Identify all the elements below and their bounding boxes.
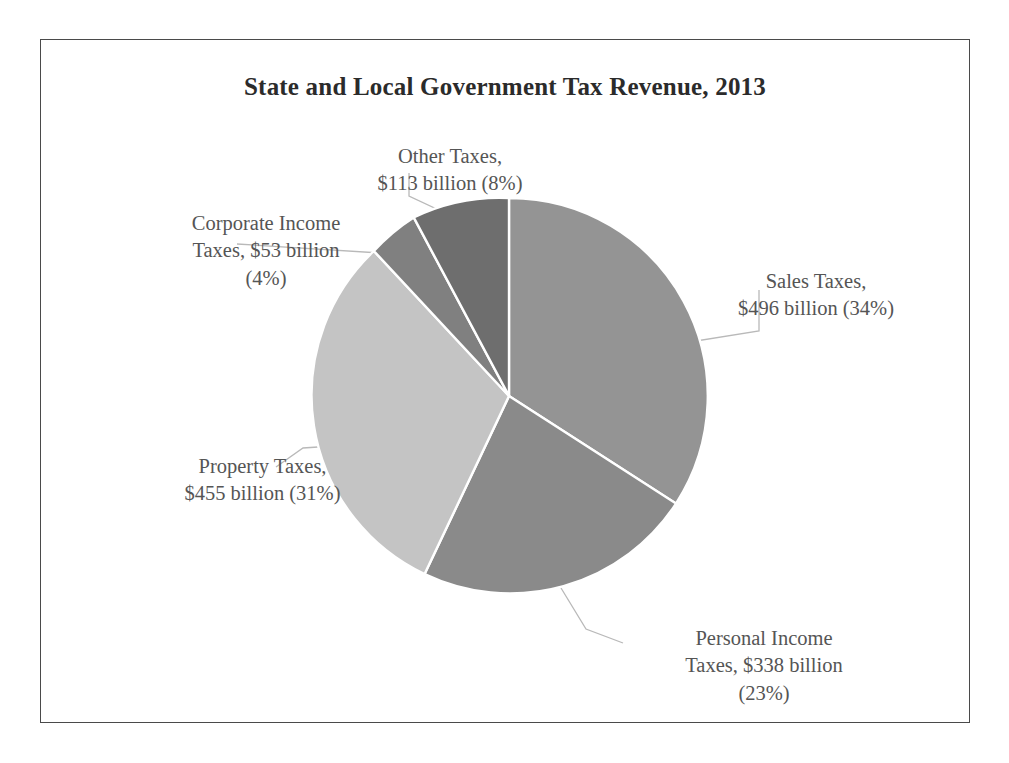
pie-label-property-taxes: Property Taxes, $455 billion (31%) (145, 453, 380, 508)
pie-label-personal-income-taxes: Personal Income Taxes, $338 billion (23%… (639, 625, 889, 707)
chart-frame: State and Local Government Tax Revenue, … (40, 39, 970, 723)
pie-label-other-taxes: Other Taxes, $113 billion (8%) (325, 143, 575, 198)
pie-label-corporate-income-taxes: Corporate Income Taxes, $53 billion (4%) (151, 210, 381, 292)
pie-label-sales-taxes: Sales Taxes, $496 billion (34%) (681, 268, 951, 323)
leader-line-personal (561, 588, 623, 643)
